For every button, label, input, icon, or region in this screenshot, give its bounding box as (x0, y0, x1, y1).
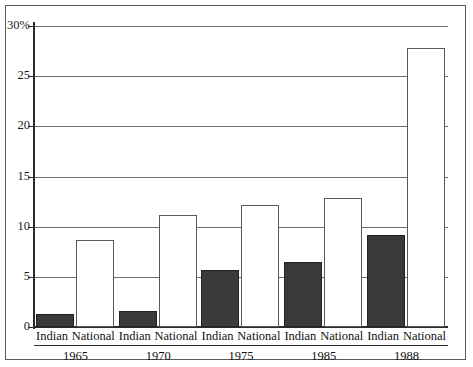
series-label-indian: Indian (36, 329, 68, 344)
bar-national-1970 (159, 215, 197, 327)
series-label-national: National (320, 329, 363, 344)
x-group-series-row: IndianNational (282, 329, 365, 344)
x-group-year-label: 1985 (282, 348, 365, 364)
bar-indian-1988 (367, 235, 405, 327)
series-label-national: National (237, 329, 280, 344)
y-tick-label: 5 (0, 270, 30, 283)
bars-layer (34, 26, 448, 327)
bar-indian-1985 (284, 262, 322, 327)
chart-page: 30%2520151050 IndianNational1965IndianNa… (0, 0, 473, 367)
bar-indian-1965 (36, 314, 74, 327)
x-group-series-row: IndianNational (34, 329, 117, 344)
series-label-national: National (403, 329, 446, 344)
x-group-series-row: IndianNational (117, 329, 200, 344)
x-axis-labels: IndianNational1965IndianNational1970Indi… (34, 329, 448, 367)
y-tick-label: 15 (0, 170, 30, 183)
y-tick-label: 30% (0, 19, 30, 32)
bar-indian-1970 (119, 311, 157, 327)
x-group-underline (365, 345, 448, 346)
x-group-series-row: IndianNational (200, 329, 283, 344)
bar-national-1965 (76, 240, 114, 327)
y-tick-label: 20 (0, 119, 30, 132)
x-group-year-label: 1988 (365, 348, 448, 364)
series-label-indian: Indian (367, 329, 399, 344)
y-tick-label: 0 (0, 320, 30, 333)
bar-national-1985 (324, 198, 362, 327)
y-tick-label: 25 (0, 69, 30, 82)
x-group-year-label: 1975 (200, 348, 283, 364)
bar-indian-1975 (201, 270, 239, 327)
series-label-indian: Indian (202, 329, 234, 344)
x-group-underline (200, 345, 283, 346)
x-group-1988: IndianNational1988 (365, 329, 448, 367)
series-label-national: National (155, 329, 198, 344)
bar-national-1975 (241, 205, 279, 327)
x-group-underline (34, 345, 117, 346)
bar-national-1988 (407, 48, 445, 327)
x-group-1975: IndianNational1975 (200, 329, 283, 367)
x-group-1970: IndianNational1970 (117, 329, 200, 367)
series-label-national: National (72, 329, 115, 344)
x-group-underline (117, 345, 200, 346)
x-group-year-label: 1970 (117, 348, 200, 364)
y-tick-label: 10 (0, 220, 30, 233)
x-group-underline (282, 345, 365, 346)
series-label-indian: Indian (119, 329, 151, 344)
x-group-series-row: IndianNational (365, 329, 448, 344)
y-axis-tick-labels: 30%2520151050 (0, 0, 30, 367)
series-label-indian: Indian (284, 329, 316, 344)
x-group-1985: IndianNational1985 (282, 329, 365, 367)
x-group-1965: IndianNational1965 (34, 329, 117, 367)
x-group-year-label: 1965 (34, 348, 117, 364)
